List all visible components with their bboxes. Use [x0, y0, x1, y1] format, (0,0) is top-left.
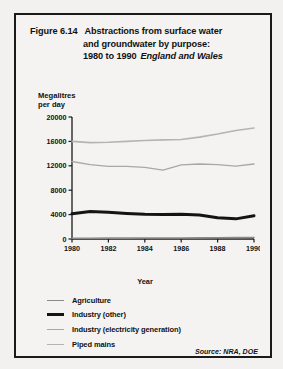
x-axis-tick-label: 1980	[64, 244, 80, 253]
y-axis-tick-label: 8000	[51, 186, 67, 195]
x-axis-tick-label: 1982	[100, 244, 116, 253]
legend-item-label: Agriculture	[72, 296, 111, 305]
x-axis-tick-label: 1986	[173, 244, 189, 253]
figure-number: Figure 6.14	[30, 25, 77, 38]
y-axis-title: Megalitres per day	[38, 91, 76, 110]
legend-item: Industry (electricity generation)	[47, 322, 257, 337]
figure-title-period: 1980 to 1990	[83, 51, 136, 61]
series-line	[72, 162, 254, 171]
y-axis-tick-label: 20000	[47, 113, 67, 122]
y-axis-tick-label: 0	[63, 235, 67, 244]
series-line	[72, 238, 254, 239]
figure-title-line3-row: 1980 to 1990England and Wales	[83, 50, 262, 63]
line-chart-svg: 0400080001200016000200001980198219841986…	[38, 113, 260, 265]
legend-swatch-line-icon	[47, 329, 64, 330]
legend-item-label: Industry (other)	[72, 310, 126, 319]
figure-title-line2: and groundwater by purpose:	[83, 38, 262, 51]
x-axis-tick-label: 1984	[137, 244, 153, 253]
series-line	[72, 128, 254, 143]
legend-swatch-line-icon	[47, 313, 64, 316]
chart-legend: AgricultureIndustry (other)Industry (ele…	[47, 293, 257, 351]
figure-title-block: Figure 6.14 Abstractions from surface wa…	[30, 25, 262, 63]
legend-item-label: Piped mains	[72, 340, 115, 349]
figure-region: England and Wales	[140, 51, 222, 61]
legend-swatch-line-icon	[47, 300, 64, 301]
x-axis-tick-label: 1988	[210, 244, 226, 253]
series-line	[72, 212, 254, 219]
y-axis-tick-label: 12000	[47, 161, 67, 170]
source-note: Source: NRA, DOE	[195, 348, 258, 356]
y-axis-tick-label: 16000	[47, 137, 67, 146]
legend-item: Agriculture	[47, 293, 257, 308]
legend-item: Industry (other)	[47, 308, 257, 323]
x-axis-title: Year	[16, 277, 274, 286]
figure-title-line1: Abstractions from surface water	[84, 25, 222, 38]
figure-border-box: Figure 6.14 Abstractions from surface wa…	[14, 13, 272, 358]
y-axis-tick-label: 4000	[51, 210, 67, 219]
legend-item-label: Industry (electricity generation)	[72, 325, 181, 334]
chart-plot-area: 0400080001200016000200001980198219841986…	[38, 113, 260, 265]
legend-swatch-line-icon	[47, 344, 64, 345]
figure-title-first-row: Figure 6.14 Abstractions from surface wa…	[30, 25, 262, 38]
x-axis-tick-label: 1990	[246, 244, 260, 253]
